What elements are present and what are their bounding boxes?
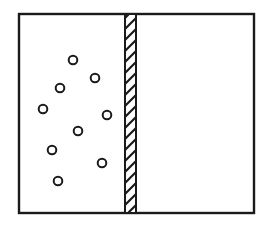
particle-group (39, 56, 112, 186)
hatched-partition (125, 14, 136, 213)
particle-circle (74, 127, 83, 136)
partitioned-container-diagram (0, 0, 268, 230)
particle-circle (48, 146, 57, 155)
particle-circle (98, 159, 107, 168)
particle-circle (54, 177, 63, 186)
partition-wall (125, 14, 136, 213)
particle-circle (69, 56, 78, 65)
particle-circle (56, 84, 65, 93)
particle-circle (91, 74, 100, 83)
particle-circle (103, 111, 112, 120)
particle-circle (39, 105, 48, 114)
